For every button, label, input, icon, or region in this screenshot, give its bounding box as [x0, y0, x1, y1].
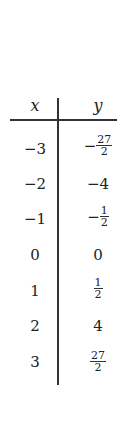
x-value: −2	[15, 176, 55, 192]
x-value: 0	[15, 247, 55, 263]
x-value: 1	[15, 283, 55, 299]
header-x: x	[15, 98, 55, 114]
x-value: 2	[15, 318, 55, 334]
y-value: 272	[78, 350, 118, 373]
y-value: 4	[78, 318, 118, 334]
y-value: −272	[78, 134, 118, 157]
header-divider	[10, 119, 117, 121]
y-value: −12	[78, 205, 118, 228]
x-value: 3	[15, 354, 55, 370]
x-value: −1	[15, 211, 55, 227]
y-value: −4	[78, 176, 118, 192]
column-divider	[57, 98, 59, 385]
y-value: 12	[78, 277, 118, 300]
y-value: 0	[78, 247, 118, 263]
x-value: −3	[15, 141, 55, 157]
header-y: y	[78, 98, 118, 114]
